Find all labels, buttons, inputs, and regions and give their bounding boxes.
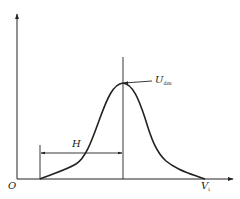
peak-label-subscript: dm (163, 80, 171, 86)
peak-curve (40, 83, 205, 179)
peak-label: Udm (155, 75, 171, 86)
peak-curve-diagram: O Vi H Udm (0, 0, 240, 199)
x-axis-label: Vi (201, 181, 210, 192)
width-label: H (72, 139, 81, 149)
x-axis-label-subscript: i (208, 186, 210, 192)
peak-leader-arrow (124, 81, 152, 83)
origin-label: O (8, 181, 16, 191)
